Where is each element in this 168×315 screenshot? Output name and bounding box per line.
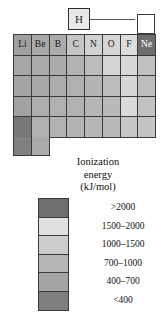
element-cell-r1-c4 <box>85 56 103 77</box>
legend-swatch-0 <box>39 199 68 218</box>
element-cell-li: Li <box>14 35 32 56</box>
legend-swatch-3 <box>39 255 68 274</box>
element-cell-r2-c1 <box>32 76 50 97</box>
element-symbol-h: H <box>75 14 83 25</box>
element-cell-ne: Ne <box>138 35 156 56</box>
legend-label-2: 1000–1500 <box>78 235 168 254</box>
legend-swatch-2 <box>39 236 68 255</box>
element-symbol-be: Be <box>35 40 46 50</box>
element-cell-r4-c6 <box>121 117 139 138</box>
legend: Ionization energy (kJ/mol) >20001500–200… <box>0 156 168 194</box>
hydrogen-leader-line <box>90 19 135 20</box>
element-cell-r3-c7 <box>138 97 156 118</box>
legend-label-3: 700–1000 <box>78 254 168 273</box>
legend-body: >20001500–20001000–1500700–1000400–700<4… <box>38 198 168 311</box>
element-symbol-li: Li <box>18 40 26 50</box>
element-cell-r2-c3 <box>67 76 85 97</box>
element-cell-r1-c2 <box>50 56 68 77</box>
element-cell-r1-c7 <box>138 56 156 77</box>
element-symbol-f: F <box>126 40 131 50</box>
element-cell-r3-c3 <box>67 97 85 118</box>
element-cell-r2-c6 <box>121 76 139 97</box>
element-cell-r2-c5 <box>103 76 121 97</box>
legend-title-line-3: (kJ/mol) <box>28 181 168 194</box>
element-symbol-o: O <box>108 40 115 50</box>
element-cell-r2-c4 <box>85 76 103 97</box>
element-cell-f: F <box>121 35 139 56</box>
legend-title-line-2: energy <box>28 169 168 182</box>
element-cell-r3-c2 <box>50 97 68 118</box>
element-symbol-he: He <box>140 19 151 29</box>
legend-label-5: <400 <box>78 291 168 310</box>
element-cell-r4-c7 <box>138 117 156 138</box>
element-symbol-n: N <box>90 40 97 50</box>
element-symbol-b: B <box>55 40 61 50</box>
element-cell-r4-c3 <box>67 117 85 138</box>
element-cell-r4-c5 <box>103 117 121 138</box>
element-cell-r4-c2 <box>50 117 68 138</box>
element-cell-r3-c6 <box>121 97 139 118</box>
element-cell-r1-c5 <box>103 56 121 77</box>
element-cell-b: B <box>50 35 68 56</box>
element-grid-tail-row <box>13 137 50 156</box>
element-cell-r1-c3 <box>67 56 85 77</box>
element-cell-r3-c1 <box>32 97 50 118</box>
element-cell-he: He <box>137 14 155 34</box>
element-cell-r5-c0 <box>14 137 32 156</box>
element-grid: LiBeBCNOFNe <box>13 34 156 138</box>
legend-title: Ionization energy (kJ/mol) <box>0 156 168 194</box>
legend-swatch-5 <box>39 292 68 311</box>
element-cell-c: C <box>67 35 85 56</box>
legend-swatch-1 <box>39 218 68 237</box>
element-symbol-c: C <box>72 40 78 50</box>
legend-swatch-column <box>38 198 69 311</box>
element-cell-r2-c7 <box>138 76 156 97</box>
element-cell-r1-c0 <box>14 56 32 77</box>
element-cell-be: Be <box>32 35 50 56</box>
element-cell-r1-c6 <box>121 56 139 77</box>
element-cell-r3-c4 <box>85 97 103 118</box>
legend-title-line-1: Ionization <box>28 156 168 169</box>
legend-swatch-4 <box>39 273 68 292</box>
legend-label-4: 400–700 <box>78 272 168 291</box>
element-cell-r4-c1 <box>32 117 50 138</box>
legend-label-1: 1500–2000 <box>78 217 168 236</box>
element-cell-r3-c0 <box>14 97 32 118</box>
periodic-table-figure: H He LiBeBCNOFNe <box>0 0 168 158</box>
element-cell-r4-c4 <box>85 117 103 138</box>
element-cell-r2-c0 <box>14 76 32 97</box>
element-cell-o: O <box>103 35 121 56</box>
element-cell-n: N <box>85 35 103 56</box>
element-cell-r5-c1 <box>32 137 50 156</box>
legend-label-column: >20001500–20001000–1500700–1000400–700<4… <box>78 198 168 309</box>
hydrogen-callout-box: H <box>68 8 90 30</box>
legend-label-0: >2000 <box>78 198 168 217</box>
element-symbol-ne: Ne <box>141 40 152 50</box>
element-cell-r2-c2 <box>50 76 68 97</box>
element-cell-r1-c1 <box>32 56 50 77</box>
element-cell-r3-c5 <box>103 97 121 118</box>
element-cell-r4-c0 <box>14 117 32 138</box>
